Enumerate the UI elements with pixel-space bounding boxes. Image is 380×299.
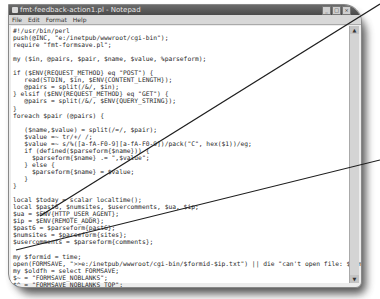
annotation-line-1 xyxy=(40,4,380,216)
annotation-line-2 xyxy=(16,160,380,250)
annotation-lines xyxy=(0,0,380,299)
